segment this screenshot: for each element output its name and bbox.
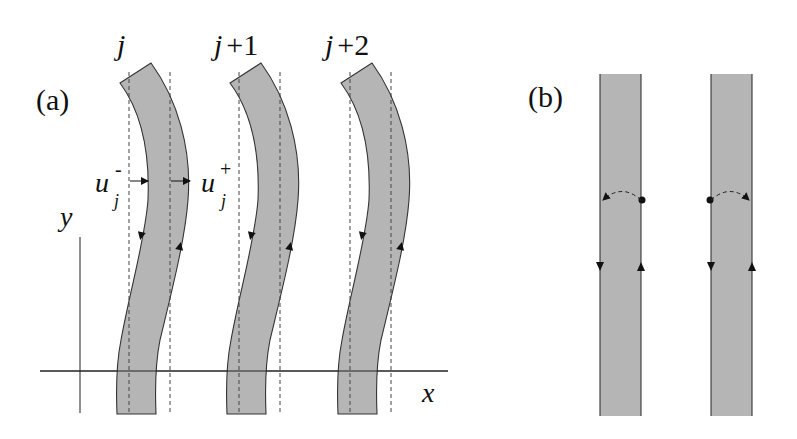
panel-a-label: (a)	[36, 83, 69, 117]
strip-j	[117, 63, 190, 414]
straight-strip-left	[596, 74, 646, 416]
figure-canvas: (a) j j+1 j+2 u - j u + j y x (b)	[0, 0, 797, 439]
straight-strip-right	[707, 74, 757, 416]
svg-text:j: j	[219, 191, 226, 211]
strip-j-plus-2	[338, 63, 410, 414]
svg-text:j: j	[112, 191, 119, 211]
strip-j-plus-1	[227, 63, 299, 414]
label-u-plus: u + j	[201, 158, 231, 211]
panel-a: (a) j j+1 j+2 u - j u + j y x	[36, 28, 448, 414]
svg-text:+: +	[220, 158, 231, 180]
svg-text:u: u	[201, 167, 215, 198]
label-u-minus: u - j	[95, 158, 122, 211]
strip-label-j: j	[113, 28, 125, 61]
panel-b-label: (b)	[528, 80, 563, 114]
dot-marker	[639, 197, 646, 204]
x-axis-label: x	[421, 377, 435, 408]
y-axis-label: y	[57, 201, 73, 232]
svg-text:u: u	[95, 167, 109, 198]
strip-label-j-plus-2: j+2	[321, 28, 369, 61]
strip-label-j-plus-1: j+1	[210, 28, 258, 61]
svg-text:-: -	[115, 158, 122, 180]
dot-marker	[707, 197, 714, 204]
panel-b: (b)	[528, 74, 756, 416]
